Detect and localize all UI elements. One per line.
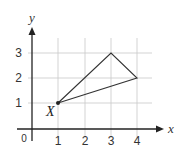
x-tick-2: 2 xyxy=(82,134,89,148)
y-axis-arrow-icon xyxy=(29,27,36,35)
origin-label: 0 xyxy=(21,133,27,144)
x-axis-label: x xyxy=(167,121,174,136)
y-axis-label: y xyxy=(27,10,35,25)
x-tick-3: 3 xyxy=(108,134,115,148)
y-tick-1: 1 xyxy=(15,96,22,110)
x-tick-4: 4 xyxy=(134,134,141,148)
y-tick-3: 3 xyxy=(15,46,22,60)
x-tick-1: 1 xyxy=(55,134,62,148)
point-x-label: X xyxy=(45,104,55,119)
grid xyxy=(28,38,152,138)
y-tick-2: 2 xyxy=(15,71,22,85)
coordinate-plot: 1 2 3 4 1 2 3 0 x y X xyxy=(0,0,180,152)
x-axis-arrow-icon xyxy=(156,126,164,133)
point-x-marker xyxy=(56,101,60,105)
